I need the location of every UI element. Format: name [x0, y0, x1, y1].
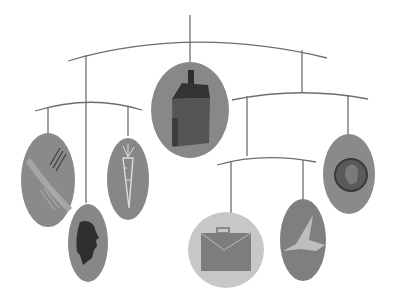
head-profile-icon [68, 204, 108, 282]
bird-icon [280, 199, 326, 281]
briefcase-icon [188, 212, 264, 288]
carrot-icon [107, 138, 149, 220]
hands-icon [21, 133, 75, 227]
mobile-illustration [0, 0, 395, 302]
house-icon [151, 62, 229, 158]
coin-icon [323, 134, 375, 214]
